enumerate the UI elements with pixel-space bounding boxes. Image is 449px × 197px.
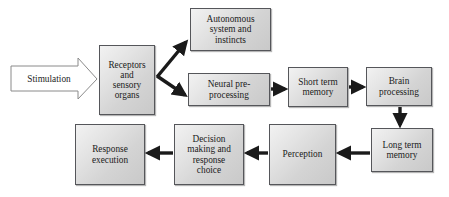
flow-diagram: Stimulation Autonomous system and instin… xyxy=(0,0,449,197)
stimulation-label: Stimulation xyxy=(16,70,82,88)
node-label: Receptors and sensory organs xyxy=(108,60,145,100)
node-short-term-memory: Short term memory xyxy=(288,67,348,107)
node-autonomous-system: Autonomous system and instincts xyxy=(190,8,271,51)
node-receptors-sensory-organs: Receptors and sensory organs xyxy=(99,45,155,115)
node-brain-processing: Brain processing xyxy=(366,67,432,106)
node-label: Autonomous system and instincts xyxy=(206,14,254,44)
node-decision-making: Decision making and response choice xyxy=(174,124,244,185)
node-label: Short term memory xyxy=(298,77,338,97)
node-label: Response execution xyxy=(92,144,128,164)
node-long-term-memory: Long term memory xyxy=(371,128,433,172)
node-label: Long term memory xyxy=(383,140,422,160)
node-response-execution: Response execution xyxy=(75,124,145,185)
node-label: Brain processing xyxy=(379,76,419,96)
stimulation-text: Stimulation xyxy=(27,74,70,84)
node-label: Perception xyxy=(283,149,323,159)
node-label: Neural pre- processing xyxy=(208,79,251,99)
node-label: Decision making and response choice xyxy=(187,134,231,174)
node-neural-preprocessing: Neural pre- processing xyxy=(188,73,270,106)
edge-receptors-neural xyxy=(157,76,185,95)
edge-receptors-autonomous xyxy=(157,42,186,77)
node-perception: Perception xyxy=(269,124,336,185)
